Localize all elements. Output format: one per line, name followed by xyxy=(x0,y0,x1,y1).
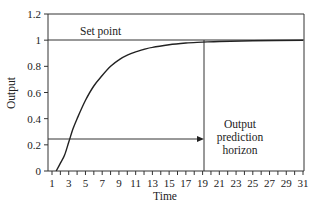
x-tick-label: 3 xyxy=(66,177,72,189)
x-tick-label: 11 xyxy=(130,177,141,189)
y-tick-label: 0.2 xyxy=(27,139,41,151)
x-tick-label: 19 xyxy=(197,177,209,189)
x-tick-label: 15 xyxy=(164,177,176,189)
x-tick-label: 27 xyxy=(264,177,276,189)
axes xyxy=(48,14,304,171)
output-curve xyxy=(56,40,303,171)
y-tick-label: 0.6 xyxy=(27,87,41,99)
x-tick-label: 9 xyxy=(116,177,122,189)
y-tick-label: 1 xyxy=(36,34,42,46)
x-tick-label: 31 xyxy=(298,177,309,189)
x-tick-label: 1 xyxy=(49,177,55,189)
setpoint-label: Set point xyxy=(80,25,122,38)
arrow-head-icon xyxy=(197,136,204,142)
x-tick-label: 13 xyxy=(147,177,159,189)
horizon-label-line3: horizon xyxy=(222,144,257,156)
step-response-chart: 00.20.40.60.811.2 1357911131517192123252… xyxy=(0,0,314,213)
x-tick-label: 5 xyxy=(83,177,89,189)
x-tick-label: 17 xyxy=(180,177,192,189)
x-tick-label: 21 xyxy=(214,177,225,189)
y-tick-label: 0.4 xyxy=(27,113,41,125)
y-axis-label: Output xyxy=(5,76,18,109)
x-tick-label: 29 xyxy=(281,177,293,189)
x-axis-label: Time xyxy=(153,190,177,202)
x-tick-label: 25 xyxy=(247,177,259,189)
y-tick-label: 0.8 xyxy=(27,60,41,72)
horizon-label-line1: Output xyxy=(224,118,257,131)
y-tick-label: 0 xyxy=(36,165,42,177)
x-tick-label: 23 xyxy=(231,177,243,189)
y-tick-label: 1.2 xyxy=(27,8,41,20)
x-ticks: 135791113151719212325272931 xyxy=(49,171,308,189)
x-tick-label: 7 xyxy=(99,177,105,189)
horizon-label-line2: prediction xyxy=(217,131,264,144)
y-ticks: 00.20.40.60.811.2 xyxy=(27,8,48,177)
